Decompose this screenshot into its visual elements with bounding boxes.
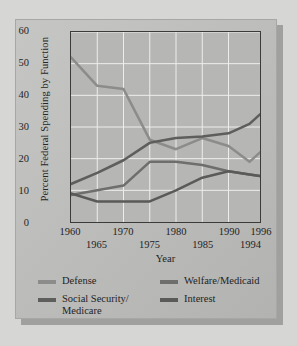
y-axis-tick-label: 50 (0, 58, 29, 69)
y-axis-tick-label: 30 (0, 122, 29, 133)
x-axis-label: Year (70, 253, 261, 264)
series-line-3 (71, 171, 260, 201)
legend-item[interactable]: Social Security/ Medicare (38, 293, 129, 316)
legend-item[interactable]: Interest (160, 293, 216, 305)
y-axis-tick-label: 20 (0, 154, 29, 165)
y-axis-tick-label: 60 (0, 26, 29, 37)
legend-swatch-icon (160, 298, 178, 302)
legend-item[interactable]: Defense (38, 275, 96, 287)
x-axis-tick-label: 1970 (100, 227, 146, 238)
legend-label: Social Security/ Medicare (62, 293, 129, 316)
y-axis-tick-label: 10 (0, 186, 29, 197)
x-axis-tick-label: 1980 (153, 227, 199, 238)
legend-item[interactable]: Welfare/Medicaid (160, 275, 260, 287)
x-axis-tick-label: 1985 (180, 240, 226, 251)
series-canvas (71, 32, 260, 222)
y-axis-label: Percent Federal Spending by Function (39, 42, 50, 202)
plot-area (70, 31, 261, 223)
chart-card: Percent Federal Spending by Function 010… (15, 19, 277, 319)
legend-label: Defense (62, 275, 96, 287)
chart-container: Percent Federal Spending by Function 010… (16, 20, 278, 320)
x-axis-tick-label: 1965 (74, 240, 120, 251)
legend-swatch-icon (160, 280, 178, 284)
x-axis-tick-label: 1996 (238, 227, 284, 238)
x-axis-tick-label: 1994 (227, 240, 273, 251)
legend-label: Interest (184, 293, 216, 305)
chart-figure: Percent Federal Spending by Function 010… (0, 0, 297, 346)
legend-swatch-icon (38, 298, 56, 302)
y-axis-tick-label: 0 (0, 218, 29, 229)
legend-label: Welfare/Medicaid (184, 275, 260, 287)
chart-legend: DefenseWelfare/MedicaidSocial Security/ … (38, 275, 272, 319)
x-axis-tick-label: 1960 (47, 227, 93, 238)
legend-swatch-icon (38, 280, 56, 284)
y-axis-tick-label: 40 (0, 90, 29, 101)
x-axis-tick-label: 1975 (127, 240, 173, 251)
series-line-0 (71, 57, 260, 161)
